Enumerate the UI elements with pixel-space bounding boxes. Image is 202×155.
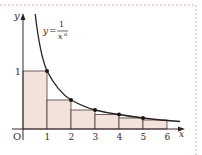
origin-label: O [13, 131, 21, 142]
x-tick-1: 1 [45, 132, 51, 142]
rect-1 [23, 71, 47, 129]
x-tick-4: 4 [117, 132, 123, 142]
x-tick-6: 6 [165, 132, 171, 142]
y-axis-label: y [13, 10, 20, 21]
rect-4 [95, 115, 119, 130]
rect-3 [71, 110, 95, 129]
equation-exponent: a [64, 31, 67, 37]
equation-label: y = 1 x a [42, 20, 68, 41]
point-5 [141, 116, 145, 120]
y-axis-arrow-icon [21, 13, 26, 20]
rect-2 [47, 100, 71, 129]
x-ticks: 1 2 3 4 5 6 [45, 132, 171, 142]
equation-lhs: y [42, 26, 49, 36]
diagram-canvas: y x O 1 1 2 3 4 5 6 y = 1 x a [0, 0, 202, 155]
x-tick-3: 3 [93, 132, 99, 142]
equation-denominator-base: x [58, 32, 63, 41]
figure-frame: y x O 1 1 2 3 4 5 6 y = 1 x a [0, 0, 202, 155]
rect-5 [119, 118, 143, 129]
x-tick-2: 2 [69, 132, 75, 142]
rect-6 [143, 120, 167, 129]
x-tick-5: 5 [141, 132, 147, 142]
point-4 [117, 113, 121, 117]
point-3 [93, 108, 97, 112]
y-tick-1: 1 [15, 67, 21, 77]
point-1 [45, 69, 49, 73]
point-2 [69, 98, 73, 102]
equation-equals: = [49, 26, 57, 36]
equation-numerator: 1 [59, 20, 64, 29]
x-axis-label: x [179, 129, 184, 139]
rectangles [23, 71, 167, 129]
